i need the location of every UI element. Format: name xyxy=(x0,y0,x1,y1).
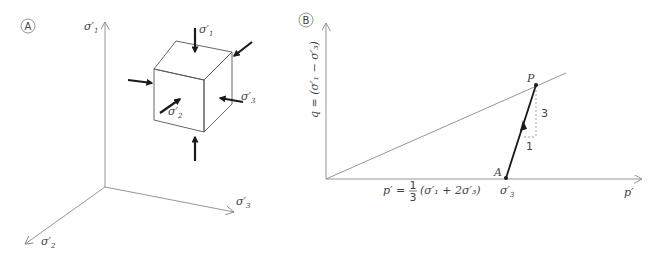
failure-envelope-line xyxy=(326,73,566,179)
cube-sigma3-label: σ′3 xyxy=(241,90,256,105)
svg-text:A: A xyxy=(25,21,32,32)
panel-b-badge: B xyxy=(299,13,313,27)
sigma2-back-arrow xyxy=(234,42,252,56)
stress-path-line xyxy=(506,85,536,178)
panel-a-badge: A xyxy=(21,19,35,33)
q-axis-label: q = (σ′₁ − σ′₃) xyxy=(308,41,321,118)
svg-text:3: 3 xyxy=(410,191,417,204)
slope-rise-label: 3 xyxy=(541,107,548,120)
panel-a: A σ′1 σ′3 σ′2 σ′1 σ′2 σ′3 xyxy=(21,19,256,250)
stress-cube xyxy=(154,41,232,132)
sigma2-axis-label: σ′2 xyxy=(41,235,56,250)
sigma3-left-arrow xyxy=(128,80,152,83)
sigma3-axis-label: σ′3 xyxy=(236,195,251,210)
p-axis-label: p′ xyxy=(624,186,634,199)
sigma2-axis xyxy=(25,187,105,244)
cube-sigma1-label: σ′1 xyxy=(199,23,213,38)
point-a-marker xyxy=(504,176,508,180)
point-a-label: A xyxy=(493,166,502,179)
sigma3-axis xyxy=(105,187,234,212)
diagram-canvas: A σ′1 σ′3 σ′2 σ′1 σ′2 σ′3 B xyxy=(0,0,657,263)
slope-run-label: 1 xyxy=(526,140,533,153)
stress-path-arrowhead xyxy=(520,120,527,131)
panel-b: B q = (σ′₁ − σ′₃) p′ 3 1 P A σ′3 p′ = 1 … xyxy=(299,13,642,204)
sigma1-axis-label: σ′1 xyxy=(84,20,98,35)
svg-text:B: B xyxy=(303,15,310,26)
cube-top-face xyxy=(154,41,232,80)
sigma3-right-arrow xyxy=(220,98,243,102)
sigma3-value-label: σ′3 xyxy=(500,184,515,199)
point-p-marker xyxy=(534,83,538,87)
cube-sigma2-label: σ′2 xyxy=(168,105,183,120)
point-p-label: P xyxy=(526,72,535,85)
cube-right-face xyxy=(204,52,232,132)
svg-text:p′ =: p′ = xyxy=(383,184,405,197)
p-prime-formula: p′ = 1 3 (σ′₁ + 2σ′₃) xyxy=(383,179,481,204)
svg-text:(σ′₁ + 2σ′₃): (σ′₁ + 2σ′₃) xyxy=(420,184,481,197)
